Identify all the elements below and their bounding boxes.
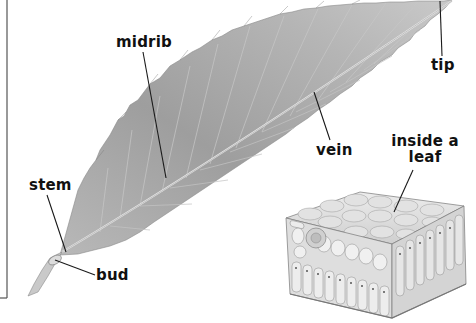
label-midrib: midrib (116, 35, 172, 50)
stem-leader (47, 195, 66, 252)
leaf-stem (28, 252, 63, 296)
bud-leader (55, 260, 95, 275)
label-vein: vein (316, 143, 353, 158)
leaf-diagram: midrib tip vein inside a leaf stem bud (0, 0, 476, 323)
label-stem: stem (29, 178, 72, 193)
label-inside-a-leaf: inside a leaf (385, 134, 465, 166)
leaf-cross-section (286, 192, 466, 318)
label-inside-a-leaf-line2: leaf (385, 150, 465, 166)
label-tip: tip (431, 58, 455, 73)
label-bud: bud (96, 268, 129, 283)
frame-border (0, 0, 7, 298)
